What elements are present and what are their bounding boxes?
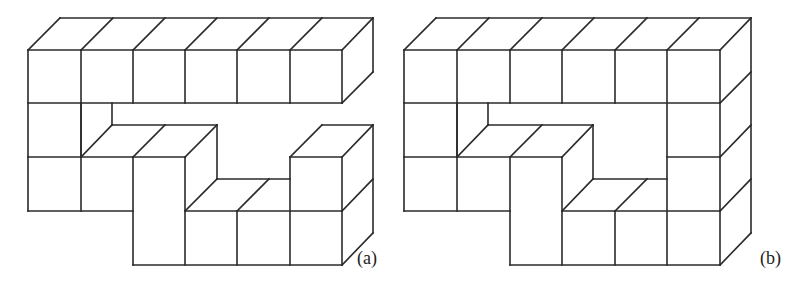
cube-diagrams (0, 0, 805, 284)
cube-edge (615, 18, 647, 50)
cube-edge (720, 72, 751, 103)
cube-edge (342, 125, 373, 157)
cube-edge (237, 179, 269, 211)
cube-edge (457, 125, 488, 157)
figure-b-cube-structure (404, 18, 751, 265)
cube-edge (562, 18, 594, 50)
cube-edge (404, 18, 436, 50)
figure-b-label: (b) (760, 248, 781, 269)
cube-edge (510, 18, 542, 50)
cube-edge (290, 18, 322, 50)
cube-edge (342, 18, 373, 50)
cube-edge (342, 179, 373, 211)
cube-edge (185, 125, 217, 157)
cube-edge (720, 233, 751, 265)
cube-edge (185, 18, 217, 50)
cube-edge (133, 18, 165, 50)
cube-edge (562, 125, 593, 157)
cube-edge (720, 179, 751, 211)
cube-edge (185, 179, 217, 211)
cube-edge (290, 125, 322, 157)
figure-a-cube-structure (28, 18, 373, 265)
figure-a-label: (a) (357, 248, 377, 269)
cube-edge (615, 179, 647, 211)
cube-edge (720, 125, 751, 157)
cube-edge (562, 179, 593, 211)
cube-edge (667, 18, 699, 50)
cube-edge (133, 125, 165, 157)
cube-edge (457, 18, 489, 50)
cube-edge (510, 125, 542, 157)
cube-edge (342, 72, 373, 103)
cube-edge (720, 18, 751, 50)
cube-edge (28, 18, 60, 50)
cube-edge (237, 18, 269, 50)
cube-edge (81, 125, 112, 157)
cube-edge (81, 18, 113, 50)
